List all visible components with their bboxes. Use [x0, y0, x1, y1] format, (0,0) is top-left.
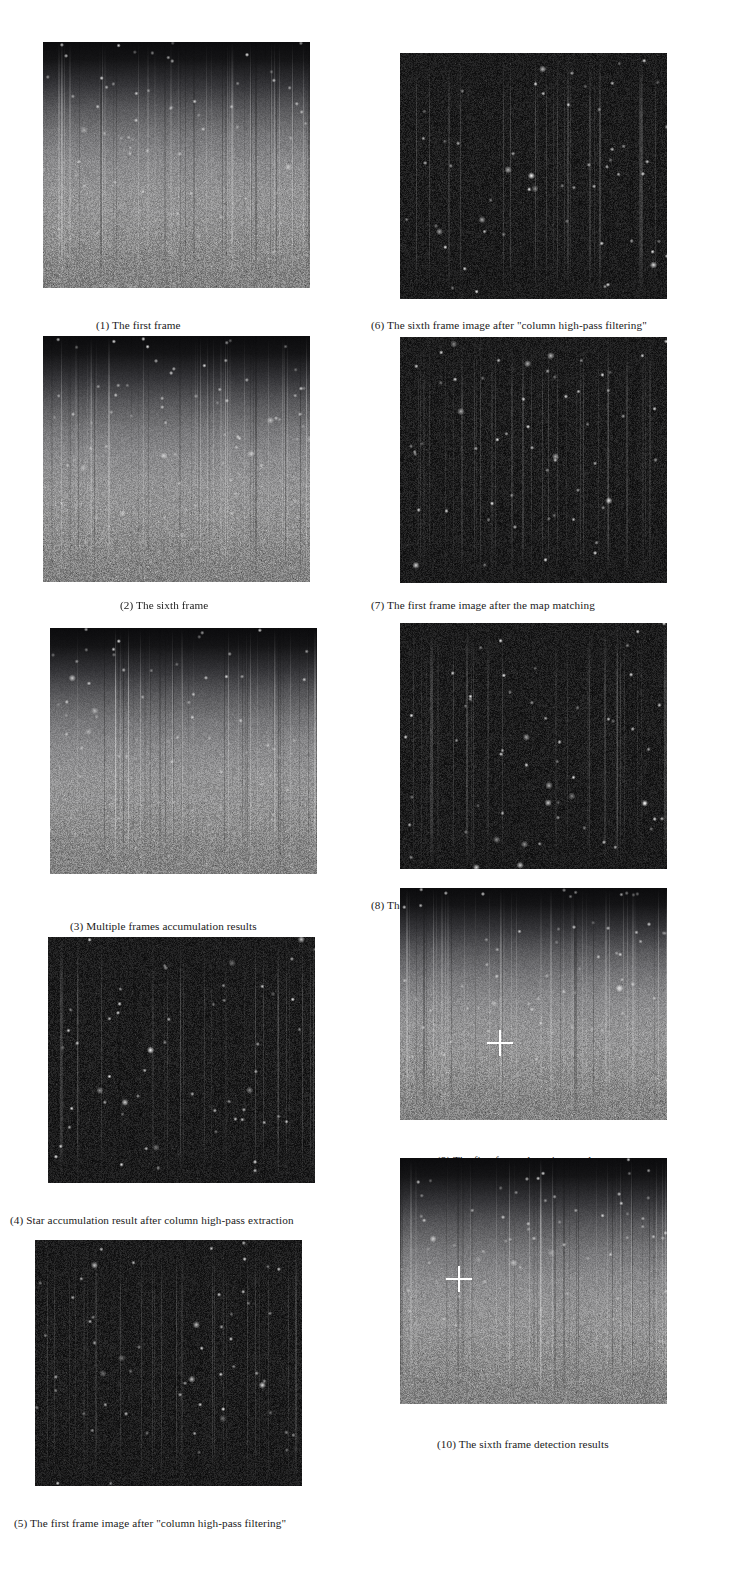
image-panel-3 [50, 628, 317, 874]
figure-root: (1) The first frame(2) The sixth frame(3… [0, 0, 744, 1586]
image-panel-6 [400, 53, 667, 299]
panel-block-6 [400, 53, 667, 299]
panel-block-2 [43, 336, 310, 582]
image-panel-5 [35, 1240, 302, 1486]
column-streak-layer [35, 1240, 302, 1486]
star-points-layer [35, 1240, 302, 1486]
column-streak-layer [43, 336, 310, 582]
star-points-layer [400, 888, 667, 1120]
image-panel-1 [43, 42, 310, 288]
gradient-layer [400, 53, 667, 299]
gradient-layer [400, 1158, 667, 1404]
star-points-layer [43, 42, 310, 288]
panel-block-5 [35, 1240, 302, 1486]
noise-layer [35, 1240, 302, 1486]
noise-layer [400, 623, 667, 869]
panel-block-3 [50, 628, 317, 874]
crosshair-horizontal-bar [446, 1278, 472, 1280]
panel-block-1 [43, 42, 310, 288]
panel-block-8 [400, 623, 667, 869]
crosshair-horizontal-bar [487, 1042, 513, 1044]
star-points-layer [43, 336, 310, 582]
gradient-layer [400, 623, 667, 869]
image-panel-8 [400, 623, 667, 869]
caption-panel-10: (10) The sixth frame detection results [437, 1437, 609, 1451]
gradient-layer [400, 888, 667, 1120]
caption-panel-2: (2) The sixth frame [120, 598, 208, 612]
gradient-layer [43, 336, 310, 582]
gradient-layer [400, 337, 667, 583]
column-streak-layer [400, 53, 667, 299]
image-panel-7 [400, 337, 667, 583]
noise-layer [400, 888, 667, 1120]
star-points-layer [400, 623, 667, 869]
panel-block-10 [400, 1158, 667, 1404]
column-streak-layer [48, 937, 315, 1183]
noise-layer [400, 337, 667, 583]
star-points-layer [48, 937, 315, 1183]
caption-panel-5: (5) The first frame image after "column … [14, 1516, 286, 1530]
column-streak-layer [400, 888, 667, 1120]
noise-layer [400, 1158, 667, 1404]
image-panel-2 [43, 336, 310, 582]
image-panel-9 [400, 888, 667, 1120]
column-streak-layer [400, 1158, 667, 1404]
caption-panel-7: (7) The first frame image after the map … [371, 598, 595, 612]
image-panel-10 [400, 1158, 667, 1404]
caption-panel-1: (1) The first frame [96, 318, 181, 332]
column-streak-layer [50, 628, 317, 874]
star-points-layer [400, 53, 667, 299]
column-streak-layer [43, 42, 310, 288]
caption-panel-6: (6) The sixth frame image after "column … [371, 318, 647, 332]
star-points-layer [400, 1158, 667, 1404]
column-streak-layer [400, 337, 667, 583]
detection-crosshair-marker [487, 1030, 513, 1056]
image-panel-4 [48, 937, 315, 1183]
noise-layer [43, 42, 310, 288]
noise-layer [50, 628, 317, 874]
detection-crosshair-marker [446, 1266, 472, 1292]
crosshair-vertical-bar [499, 1030, 501, 1056]
panel-block-9 [400, 888, 667, 1120]
caption-panel-3: (3) Multiple frames accumulation results [70, 919, 257, 933]
caption-panel-4: (4) Star accumulation result after colum… [10, 1213, 294, 1227]
panel-block-4 [48, 937, 315, 1183]
column-streak-layer [400, 623, 667, 869]
noise-layer [48, 937, 315, 1183]
gradient-layer [43, 42, 310, 288]
noise-layer [43, 336, 310, 582]
star-points-layer [400, 337, 667, 583]
noise-layer [400, 53, 667, 299]
gradient-layer [50, 628, 317, 874]
star-points-layer [50, 628, 317, 874]
gradient-layer [48, 937, 315, 1183]
crosshair-vertical-bar [458, 1266, 460, 1292]
panel-block-7 [400, 337, 667, 583]
gradient-layer [35, 1240, 302, 1486]
